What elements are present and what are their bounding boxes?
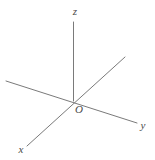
y-axis-line xyxy=(6,81,137,123)
axes-svg: z y x O xyxy=(0,0,155,160)
x-axis-label: x xyxy=(18,143,24,155)
z-axis-label: z xyxy=(72,5,78,17)
x-axis-line xyxy=(27,57,125,146)
origin-label: O xyxy=(75,103,83,115)
y-axis-label: y xyxy=(140,119,146,131)
coordinate-axes-figure: z y x O xyxy=(0,0,155,160)
